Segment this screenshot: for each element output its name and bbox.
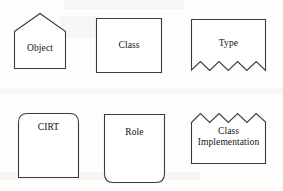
shape-label-class-implementation: Class Implementation xyxy=(189,126,268,147)
shape-label-cirt: CIRT xyxy=(19,122,78,133)
diagram-canvas: Object Class Type CIRT Role Class Implem… xyxy=(0,0,283,191)
shape-label-object: Object xyxy=(14,43,66,54)
shape-class-implementation-role-outline xyxy=(105,115,165,183)
shapes-layer xyxy=(0,0,283,191)
shape-object-outline xyxy=(15,14,66,69)
shape-label-role: Role xyxy=(105,127,164,138)
shape-label-type: Type xyxy=(192,38,265,49)
shape-label-class: Class xyxy=(97,40,161,51)
